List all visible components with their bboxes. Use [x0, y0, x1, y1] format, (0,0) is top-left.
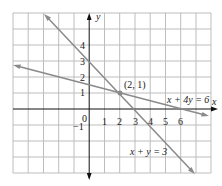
grid — [13, 13, 211, 173]
x-tick-3: 3 — [133, 117, 138, 127]
y-axis-label: y — [96, 12, 100, 22]
x-tick-4: 4 — [148, 117, 153, 127]
line1-label: x + 4y = 6 — [167, 95, 209, 105]
x-tick-6: 6 — [178, 117, 183, 127]
y-axis-arrow-icon — [87, 13, 92, 20]
intersection-label: (2, 1) — [124, 80, 146, 90]
y-axis-arrow-down-icon — [87, 173, 92, 180]
coordinate-plane — [0, 0, 222, 186]
y-tick-4: 4 — [80, 41, 85, 51]
x-tick-2: 2 — [117, 117, 122, 127]
intersection-point — [118, 91, 123, 96]
x-tick-1: 1 — [102, 117, 107, 127]
y-tick-2: 2 — [80, 73, 85, 83]
x-axis-label: x — [212, 97, 216, 107]
line2-label: x + y = 3 — [130, 147, 167, 157]
y-tick-1: 1 — [80, 88, 85, 98]
x-tick-5: 5 — [163, 117, 168, 127]
x-axis-arrow-icon — [211, 107, 218, 112]
y-tick-3: 3 — [80, 57, 85, 67]
y-tick-neg1: −1 — [73, 122, 84, 132]
